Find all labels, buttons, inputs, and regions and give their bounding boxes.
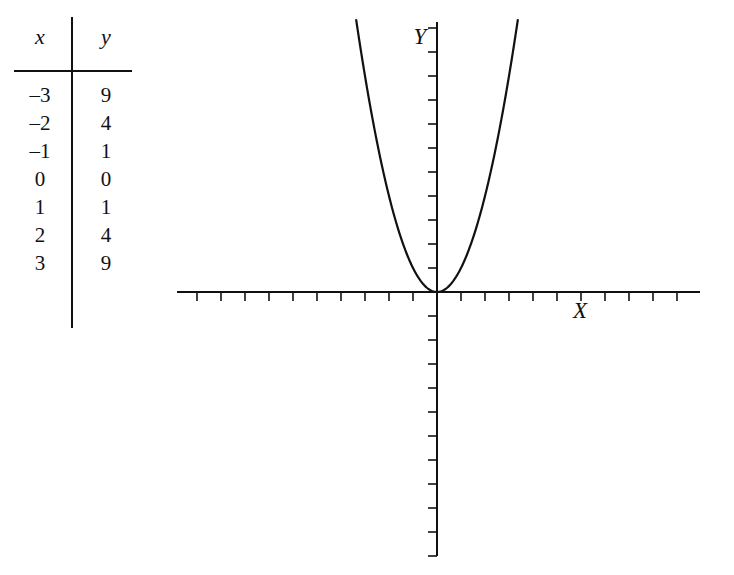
- value-table: x y –3 9 –2 4 –1 1 0 0 1 1 2 4 3 9: [0, 0, 160, 340]
- plot-svg: X Y: [160, 0, 734, 575]
- table-cell-y: 9: [80, 85, 132, 106]
- table-cell-x: 2: [14, 225, 66, 246]
- table-header-rule: [14, 70, 132, 72]
- table-cell-y: 1: [80, 141, 132, 162]
- table-cell-y: 4: [80, 225, 132, 246]
- table-cell-x: 3: [14, 253, 66, 274]
- table-cell-y: 0: [80, 169, 132, 190]
- y-axis-label: Y: [414, 24, 429, 49]
- table-column-divider: [71, 17, 73, 328]
- table-cell-x: –3: [14, 85, 66, 106]
- table-cell-x: –2: [14, 113, 66, 134]
- x-axis-label: X: [572, 298, 588, 323]
- table-cell-x: 1: [14, 197, 66, 218]
- table-cell-y: 9: [80, 253, 132, 274]
- table-cell-y: 1: [80, 197, 132, 218]
- table-header-x: x: [14, 26, 66, 47]
- table-header-y: y: [80, 26, 132, 47]
- table-cell-y: 4: [80, 113, 132, 134]
- table-cell-x: –1: [14, 141, 66, 162]
- figure-canvas: x y –3 9 –2 4 –1 1 0 0 1 1 2 4 3 9: [0, 0, 734, 575]
- coordinate-plot: X Y: [160, 0, 734, 575]
- table-cell-x: 0: [14, 169, 66, 190]
